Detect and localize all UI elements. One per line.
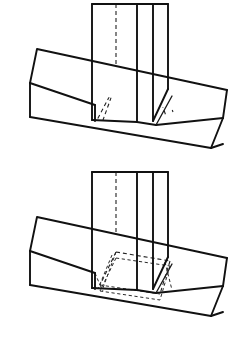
post-bottom-front-edge2-bottom	[137, 290, 156, 293]
figure-top	[30, 4, 227, 148]
figure-bottom	[30, 172, 227, 316]
rail-front-top-edge-right-top	[156, 118, 223, 125]
joint-isometric-drawing	[0, 0, 233, 349]
post-bottom-front-edge-bottom	[92, 288, 137, 290]
rail-right-front-vertical-top	[211, 118, 223, 148]
rail-front-top-edge-right-bottom	[156, 286, 223, 293]
drawing-canvas	[0, 0, 233, 349]
post-bottom-front-edge-top	[92, 120, 137, 122]
rail-right-front-vertical-bottom	[211, 286, 223, 316]
post-bottom-front-edge2-top	[137, 122, 156, 125]
